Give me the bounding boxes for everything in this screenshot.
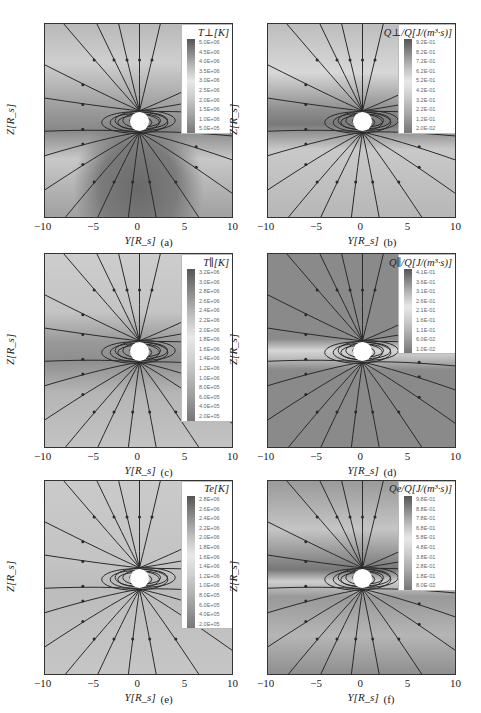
x-tick-label: 5	[182, 678, 188, 689]
plot-area: T⊥[K]5.0E+064.5E+064.0E+063.5E+063.0E+06…	[44, 23, 233, 218]
panel-label: (c)	[161, 466, 173, 478]
legend-value: 6.2E-01	[416, 68, 435, 74]
y-axis-label: Z[R_s]	[227, 560, 239, 591]
x-tick-label: 5	[405, 451, 411, 462]
x-tick-label: −10	[34, 451, 51, 462]
x-tick-label: 0	[358, 221, 364, 232]
colorbar	[187, 496, 195, 628]
legend-value: 2.0E+05	[199, 621, 220, 627]
x-tick-label: −10	[34, 221, 51, 232]
colorbar-legend: T⊥[K]5.0E+064.5E+064.0E+063.5E+063.0E+06…	[181, 24, 233, 134]
colorbar-legend: Q∥/Q[J/(m³·s)]4.1E-013.6E-013.1E-012.6E-…	[398, 254, 456, 354]
x-tick-label: −5	[310, 678, 322, 689]
legend-value: 2.6E-01	[416, 298, 435, 304]
legend-value: 5.2E-01	[416, 77, 435, 83]
x-tick-label: −10	[34, 678, 51, 689]
legend-value: 2.2E-01	[416, 106, 435, 112]
legend-value: 5.0E+06	[199, 39, 220, 45]
x-tick-label: −5	[87, 678, 99, 689]
colorbar	[404, 496, 412, 590]
legend-value: 1.4E+06	[199, 355, 220, 361]
legend-value: 2.6E+06	[199, 298, 220, 304]
legend-value: 1.0E+06	[199, 116, 220, 122]
legend-value: 1.1E-01	[416, 327, 435, 333]
x-axis-label: Y[R_s]	[348, 464, 379, 476]
plot-area: Te[K]2.8E+062.6E+062.4E+062.2E+062.0E+06…	[44, 480, 233, 675]
legend-value: 1.0E-02	[416, 346, 435, 352]
legend-value: 1.8E-01	[416, 573, 435, 579]
y-axis-label: Z[R_s]	[4, 103, 16, 134]
panel-label: (d)	[384, 466, 397, 478]
y-axis-label: Z[R_s]	[4, 560, 16, 591]
legend-value: 1.0E+06	[199, 582, 220, 588]
legend-title: Q∥/Q[J/(m³·s)]	[389, 256, 452, 268]
x-tick-label: −10	[257, 678, 274, 689]
colorbar	[404, 39, 412, 133]
legend-value: 1.5E+06	[199, 106, 220, 112]
colorbar-legend: Qe/Q[J/(m³·s)]9.8E-018.8E-017.8E-016.8E-…	[398, 481, 456, 591]
legend-value: 6.0E-02	[416, 336, 435, 342]
legend-value: 2.8E-01	[416, 563, 435, 569]
x-tick-label: −10	[257, 451, 274, 462]
legend-value: 2.4E+06	[199, 307, 220, 313]
legend-value: 3.2E-01	[416, 97, 435, 103]
plot-area: T∥[K]3.2E+063.0E+062.8E+062.6E+062.4E+06…	[44, 253, 233, 448]
legend-value: 7.2E-01	[416, 58, 435, 64]
x-axis-label: Y[R_s]	[125, 234, 156, 246]
x-tick-label: 5	[405, 221, 411, 232]
x-axis-label: Y[R_s]	[348, 691, 379, 703]
y-axis-label: Z[R_s]	[227, 103, 239, 134]
legend-value: 4.0E+05	[199, 403, 220, 409]
x-tick-label: 10	[227, 221, 238, 232]
legend-value: 2.6E+06	[199, 506, 220, 512]
legend-value: 3.0E+06	[199, 279, 220, 285]
legend-value: 2.2E+06	[199, 525, 220, 531]
colorbar	[187, 269, 195, 421]
legend-title: T⊥[K]	[198, 26, 229, 38]
legend-value: 6.0E+05	[199, 394, 220, 400]
legend-title: Te[K]	[204, 483, 229, 494]
legend-value: 5.0E+05	[199, 125, 220, 131]
legend-value: 8.2E-01	[416, 49, 435, 55]
x-tick-label: −10	[257, 221, 274, 232]
x-axis-label: Y[R_s]	[125, 464, 156, 476]
x-tick-label: −5	[310, 451, 322, 462]
x-tick-label: 10	[450, 451, 461, 462]
panel-label: (a)	[161, 236, 173, 248]
x-tick-label: −5	[87, 451, 99, 462]
legend-value: 9.2E-01	[416, 39, 435, 45]
legend-value: 9.8E-01	[416, 496, 435, 502]
legend-title: Qe/Q[J/(m³·s)]	[389, 483, 452, 494]
legend-value: 6.0E+05	[199, 602, 220, 608]
legend-value: 8.0E-02	[416, 582, 435, 588]
legend-value: 4.8E-01	[416, 544, 435, 550]
plot-area: Q∥/Q[J/(m³·s)]4.1E-013.6E-013.1E-012.6E-…	[267, 253, 456, 448]
legend-value: 2.1E-01	[416, 307, 435, 313]
x-tick-label: 10	[227, 451, 238, 462]
legend-value: 1.6E+06	[199, 346, 220, 352]
x-tick-label: 0	[135, 451, 141, 462]
legend-value: 1.6E+06	[199, 554, 220, 560]
legend-value: 3.2E+06	[199, 269, 220, 275]
x-tick-label: 10	[450, 221, 461, 232]
legend-value: 3.0E+06	[199, 77, 220, 83]
colorbar-legend: Te[K]2.8E+062.6E+062.4E+062.2E+062.0E+06…	[181, 481, 233, 629]
x-tick-label: −5	[87, 221, 99, 232]
legend-value: 1.8E+06	[199, 544, 220, 550]
x-tick-label: 0	[358, 451, 364, 462]
x-tick-label: −5	[310, 221, 322, 232]
legend-title: Q⊥/Q[J/(m³·s)]	[384, 26, 452, 38]
x-tick-label: 0	[135, 678, 141, 689]
legend-value: 1.2E+06	[199, 365, 220, 371]
legend-value: 1.2E+06	[199, 573, 220, 579]
x-tick-label: 10	[227, 678, 238, 689]
panel-label: (b)	[384, 236, 397, 248]
x-tick-label: 10	[450, 678, 461, 689]
legend-value: 8.0E+05	[199, 592, 220, 598]
legend-value: 1.2E-01	[416, 116, 435, 122]
legend-value: 2.5E+06	[199, 87, 220, 93]
panel-label: (f)	[384, 693, 395, 705]
panel-label: (e)	[161, 693, 173, 705]
legend-value: 6.8E-01	[416, 525, 435, 531]
legend-value: 2.0E+06	[199, 534, 220, 540]
